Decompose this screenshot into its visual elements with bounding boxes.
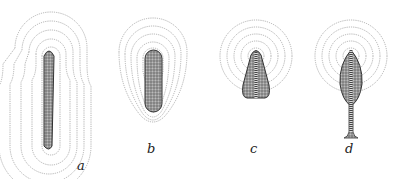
- label-c: c: [250, 141, 257, 156]
- stripe-d: [350, 50, 353, 132]
- diagram-canvas: [0, 0, 398, 179]
- label-d: d: [345, 141, 353, 156]
- body-a: [44, 51, 54, 149]
- stripe-c: [255, 52, 258, 98]
- label-b: b: [147, 141, 155, 156]
- label-a: a: [77, 158, 85, 173]
- body-b: [145, 50, 162, 112]
